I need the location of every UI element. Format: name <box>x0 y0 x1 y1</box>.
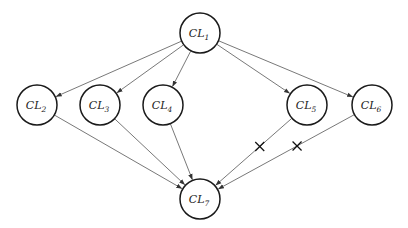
arrow-line <box>173 51 191 86</box>
node-cl3: CL3 <box>80 85 120 125</box>
edge-cl4-to-cl7 <box>171 124 193 179</box>
cut-x-icon <box>293 141 302 150</box>
arrow-line <box>115 119 185 185</box>
node-cl6: CL6 <box>352 85 392 125</box>
arrow-line <box>55 115 182 188</box>
edge-cl3-to-cl7 <box>115 119 185 185</box>
arrow-line <box>171 124 193 179</box>
arrow-line <box>216 119 292 186</box>
edge-cl5-to-cl7 <box>216 119 292 186</box>
node-cl1: CL1 <box>180 13 220 53</box>
node-cl2: CL2 <box>17 85 57 125</box>
edge-cl1-to-cl5 <box>217 44 290 93</box>
edge-cl2-to-cl7 <box>55 115 182 188</box>
nodes-layer: CL1CL2CL3CL4CL5CL6CL7 <box>17 13 392 219</box>
node-cl4: CL4 <box>143 85 183 125</box>
edge-cl1-to-cl6 <box>219 41 353 97</box>
node-cl7: CL7 <box>180 179 220 219</box>
arrow-line <box>217 44 290 93</box>
node-cl5: CL5 <box>287 85 327 125</box>
arrow-line <box>219 41 353 97</box>
edge-cl6-to-cl7 <box>218 115 354 189</box>
cut-x-icon <box>255 142 264 151</box>
edge-cl1-to-cl4 <box>173 51 191 86</box>
arrow-line <box>218 115 354 189</box>
graph-diagram: CL1CL2CL3CL4CL5CL6CL7 <box>0 0 408 228</box>
